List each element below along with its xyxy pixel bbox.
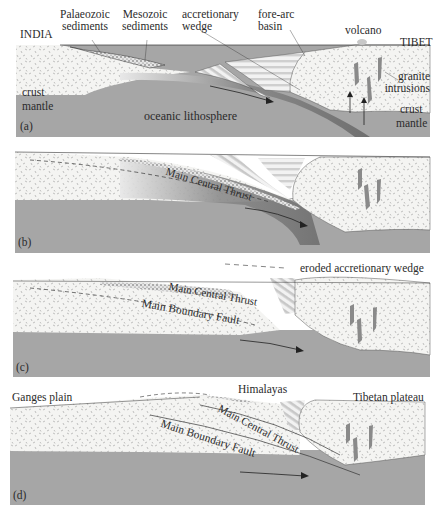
label-mesozoic: Mesozoic sediments bbox=[122, 8, 168, 32]
label-granite-line2: intrusions bbox=[385, 82, 430, 94]
label-mantle-left: mantle bbox=[22, 100, 53, 112]
label-granite: granite intrusions bbox=[384, 70, 430, 94]
panel-b bbox=[15, 152, 430, 253]
label-mantle-right: mantle bbox=[396, 117, 427, 129]
label-volcano: volcano bbox=[345, 24, 381, 36]
label-oceanic-lithosphere: oceanic lithosphere bbox=[144, 110, 237, 122]
label-palaeozoic-line1: Palaeozoic bbox=[60, 8, 110, 20]
label-granite-line1: granite bbox=[398, 70, 430, 82]
panel-label-c: (c) bbox=[16, 361, 29, 373]
label-accretionary-line1: accretionary bbox=[182, 8, 239, 20]
label-forearc: fore-arc basin bbox=[258, 8, 294, 32]
panel-label-a: (a) bbox=[20, 120, 33, 132]
label-himalayas: Himalayas bbox=[238, 383, 287, 395]
panel-label-b: (b) bbox=[18, 236, 31, 248]
label-india: INDIA bbox=[20, 28, 53, 40]
label-tibetan-plateau: Tibetan plateau bbox=[353, 391, 424, 403]
label-mesozoic-line1: Mesozoic bbox=[123, 8, 168, 20]
label-tibet: TIBET bbox=[400, 36, 433, 48]
label-accretionary-line2: wedge bbox=[182, 20, 212, 32]
label-ganges-plain: Ganges plain bbox=[12, 391, 72, 403]
label-palaeozoic-line2: sediments bbox=[62, 20, 108, 32]
diagram-canvas bbox=[0, 0, 442, 511]
panel-label-d: (d) bbox=[13, 489, 26, 501]
label-forearc-line1: fore-arc bbox=[258, 8, 294, 20]
label-mesozoic-line2: sediments bbox=[122, 20, 168, 32]
label-forearc-line2: basin bbox=[258, 20, 282, 32]
label-crust-right: crust bbox=[400, 103, 422, 115]
label-eroded-wedge: eroded accretionary wedge bbox=[300, 262, 424, 274]
label-palaeozoic: Palaeozoic sediments bbox=[60, 8, 110, 32]
label-crust-left: crust bbox=[22, 86, 44, 98]
label-accretionary: accretionary wedge bbox=[182, 8, 239, 32]
